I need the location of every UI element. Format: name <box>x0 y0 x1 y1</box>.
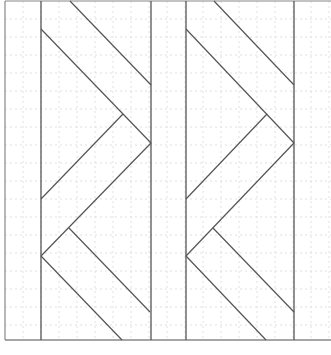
diagonal-line <box>41 143 151 256</box>
diagonal-line <box>186 256 266 340</box>
outer-frame <box>5 1 331 340</box>
diagonal-line <box>41 29 151 143</box>
diagonal-line <box>69 228 150 312</box>
background-grid <box>5 1 331 340</box>
diagonal-line <box>186 143 294 256</box>
diagonal-line <box>41 256 122 340</box>
diagonal-line <box>213 228 294 312</box>
diagonal-line <box>186 29 294 143</box>
diagonal-line <box>214 1 294 85</box>
quilt-pattern-diagram <box>0 0 331 355</box>
